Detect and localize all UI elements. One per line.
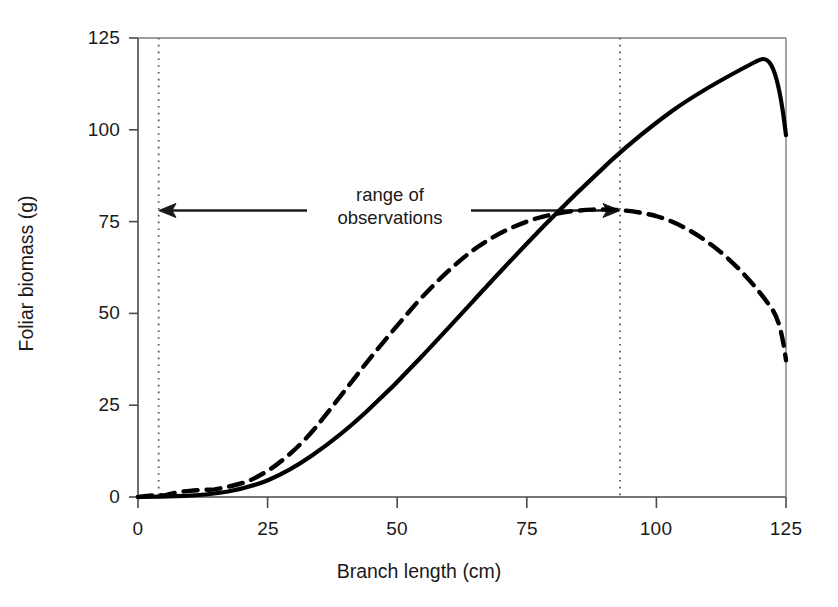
- y-tick-label-125: 125: [55, 27, 120, 49]
- range-annotation-line-2: observations: [310, 206, 470, 229]
- y-tick-label-100: 100: [55, 119, 120, 141]
- x-tick-label-125: 125: [770, 518, 802, 540]
- plot-frame: [138, 38, 786, 497]
- y-axis-ticks: [129, 38, 138, 497]
- range-annotation-line-1: range of: [310, 183, 470, 206]
- y-tick-label-0: 0: [55, 486, 120, 508]
- x-tick-label-50: 50: [386, 518, 408, 540]
- data-series-group: [138, 59, 786, 497]
- y-tick-label-50: 50: [55, 302, 120, 324]
- y-tick-label-75: 75: [55, 211, 120, 233]
- x-tick-label-0: 0: [133, 518, 144, 540]
- reference-lines: [159, 38, 620, 497]
- x-tick-label-100: 100: [640, 518, 672, 540]
- x-axis-title: Branch length (cm): [0, 560, 838, 583]
- y-tick-label-25: 25: [55, 394, 120, 416]
- series-polynomial-function-model: [138, 209, 786, 497]
- range-of-observations-annotation: range of observations: [310, 183, 470, 229]
- x-tick-label-75: 75: [516, 518, 538, 540]
- chart-figure: 125 100 75 50 25 0 0 25 50 75 100 125 Br…: [0, 0, 838, 607]
- y-axis-title: Foliar biomass (g): [15, 124, 38, 424]
- series-power-function-model: [138, 59, 786, 497]
- x-axis-ticks: [138, 497, 786, 508]
- plot-canvas: [0, 0, 838, 607]
- x-tick-label-25: 25: [257, 518, 279, 540]
